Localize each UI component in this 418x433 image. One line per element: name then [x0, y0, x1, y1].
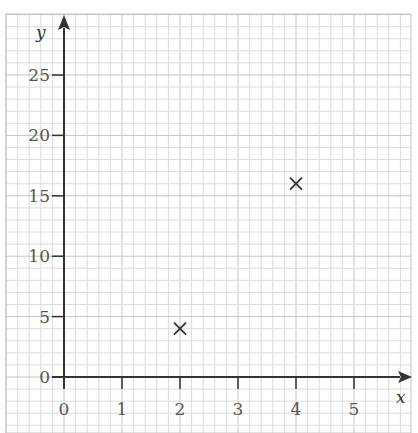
y-ticks: 0510152025: [28, 65, 64, 387]
x-tick-label: 2: [175, 399, 186, 419]
y-tick-label: 20: [28, 125, 50, 145]
x-axis-label: x: [396, 387, 406, 407]
x-tick-label: 3: [233, 399, 244, 419]
scatter-chart: x y 012345 0510152025: [0, 0, 418, 433]
grid-border: [6, 14, 411, 433]
x-ticks: 012345: [59, 377, 360, 419]
y-tick-label: 25: [28, 65, 50, 85]
x-tick-label: 4: [291, 399, 302, 419]
x-tick-label: 0: [59, 399, 70, 419]
y-tick-label: 15: [28, 186, 50, 206]
y-tick-label: 10: [28, 246, 50, 266]
y-axis-label: y: [35, 22, 46, 42]
axes: x y: [35, 15, 412, 407]
y-tick-label: 0: [39, 367, 50, 387]
x-tick-label: 5: [349, 399, 360, 419]
grid: [6, 14, 411, 433]
x-tick-label: 1: [117, 399, 128, 419]
y-tick-label: 5: [39, 307, 50, 327]
